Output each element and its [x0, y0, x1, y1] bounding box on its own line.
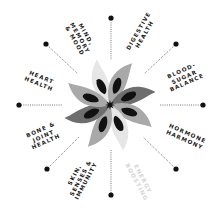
dot-icon-top-left — [43, 41, 48, 46]
flower-icon — [63, 58, 157, 152]
center-star-icon — [105, 100, 115, 110]
wheel-artwork — [0, 0, 219, 211]
dot-icon-top-right — [173, 41, 178, 46]
benefits-wheel-diagram: MIND, MEMORY & MOODDIGESTIVE HEALTHBLOOD… — [0, 0, 219, 211]
spoke-line-top-left — [46, 44, 78, 74]
spoke-line-bottom-right — [143, 137, 176, 169]
dot-icon-bottom — [108, 192, 113, 197]
dot-icon-left — [16, 102, 21, 107]
spoke-line-top-right — [144, 44, 176, 74]
dot-icon-bottom-right — [173, 166, 178, 171]
dot-icon-right — [200, 102, 205, 107]
dot-icon-top — [108, 15, 113, 20]
dot-icon-bottom-left — [44, 166, 49, 171]
